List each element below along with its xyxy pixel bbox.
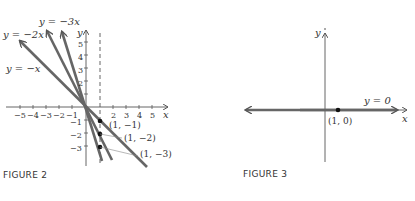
point-label-1: (1, −1) [109,120,141,130]
label-y-neg-2x: y = −2x [2,29,44,40]
svg-text:4: 4 [78,53,83,62]
y-axis-label: y [76,27,83,38]
line-y-neg-2x [47,31,112,160]
figure-3: y x y = 0 (1, 0) [246,27,408,162]
svg-text:−3: −3 [70,144,82,153]
svg-text:5: 5 [150,111,155,120]
figure-2-caption: FIGURE 2 [3,170,47,180]
svg-text:−3: −3 [40,111,52,120]
figure-3-caption: FIGURE 3 [243,169,287,179]
svg-text:2: 2 [78,79,83,88]
point-1-neg1 [98,119,103,124]
label-y-neg-x: y = −x [5,63,41,74]
svg-text:−2: −2 [53,111,65,120]
point-label: (1, 0) [328,116,352,126]
svg-text:−5: −5 [14,111,26,120]
point-1-0 [336,108,341,113]
y-axis-label: y [314,27,321,38]
line-y-neg-3x [62,32,102,161]
label-y-neg-3x: y = −3x [38,16,80,27]
x-axis-label: x [163,109,169,120]
svg-text:5: 5 [78,40,83,49]
figure-2: y = −3x y = −2x y = −x y x −5−4 −3−2 −12… [2,16,172,167]
svg-text:−1: −1 [70,118,82,127]
svg-text:−2: −2 [70,131,82,140]
svg-text:2: 2 [111,111,116,120]
point-label-2: (1, −2) [124,133,156,143]
x-axis-label: x [402,113,408,124]
line-label-y0: y = 0 [363,95,391,106]
point-label-3: (1, −3) [140,149,172,159]
svg-text:3: 3 [78,66,83,75]
figures-canvas: y = −3x y = −2x y = −x y x −5−4 −3−2 −12… [0,0,415,201]
svg-text:−4: −4 [27,111,39,120]
svg-text:4: 4 [137,111,142,120]
svg-text:3: 3 [124,111,129,120]
